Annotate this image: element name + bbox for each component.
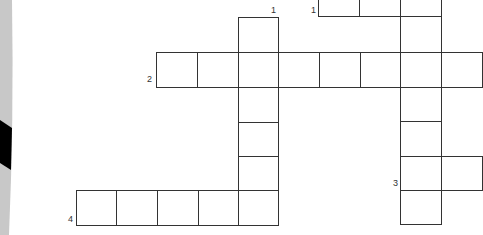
cell-down-3-1[interactable] [400,16,442,53]
cell-across-2-3[interactable] [238,52,279,88]
cell-across-2-6[interactable] [360,52,401,88]
cell-down-3-3[interactable] [400,87,442,122]
cell-across-4-1[interactable] [76,190,117,226]
cell-across-2-2[interactable] [197,52,239,88]
clue-number-across-4: 4 [68,215,73,224]
cell-across-1-2[interactable] [359,0,401,17]
cell-partial-right[interactable] [441,156,483,191]
cell-across-4-4[interactable] [198,190,239,226]
gray-shape [0,0,13,235]
cell-down-3-6[interactable] [400,190,442,225]
cell-down-3-4[interactable] [400,121,442,157]
cell-across-2-8[interactable] [441,52,483,88]
cell-down-1-1[interactable] [238,17,279,53]
cell-across-1-1[interactable] [318,0,360,17]
cell-across-2-1[interactable] [156,52,198,88]
decorative-edge-graphic [0,0,40,235]
clue-number-across-2: 2 [147,75,152,84]
cell-across-1-3[interactable] [400,0,442,17]
black-band [0,120,12,170]
cell-across-4-5[interactable] [238,190,279,226]
clue-number-down-1: 1 [271,6,276,15]
cell-down-3-5[interactable] [400,156,442,191]
cell-down-1-3[interactable] [238,87,279,123]
cell-across-2-7[interactable] [400,52,442,88]
clue-number-down-3: 3 [393,179,398,188]
cell-across-2-4[interactable] [278,52,320,88]
cell-down-1-5[interactable] [238,156,279,191]
cell-across-2-5[interactable] [319,52,361,88]
cell-across-4-2[interactable] [116,190,158,226]
cell-across-4-3[interactable] [157,190,199,226]
clue-number-across-1: 1 [311,6,316,15]
cell-down-1-4[interactable] [238,122,279,157]
